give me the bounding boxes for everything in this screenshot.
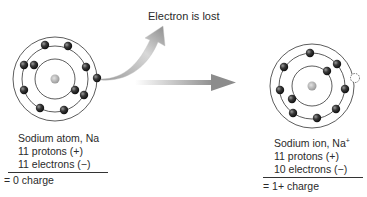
ion-charge: = 1+ charge <box>263 180 319 193</box>
sodium-ion <box>270 44 360 128</box>
nucleus-icon <box>51 75 60 84</box>
ion-title: Sodium ion, Na+ <box>274 137 350 150</box>
atom-charge: = 0 charge <box>4 174 54 187</box>
ion-electrons: 10 electrons (−) <box>274 163 347 176</box>
atom-protons: 11 protons (+) <box>18 145 83 158</box>
caption-electron-lost: Electron is lost <box>148 10 220 23</box>
nucleus-icon <box>308 82 317 91</box>
transition-arrow-icon <box>135 74 236 91</box>
ion-title-text: Sodium ion, Na <box>274 137 346 149</box>
sodium-atom <box>13 37 101 121</box>
ion-protons: 11 protons (+) <box>274 150 339 163</box>
curved-arrow-icon <box>101 26 165 80</box>
atom-title: Sodium atom, Na <box>18 132 99 145</box>
valence-electron-icon <box>93 74 101 82</box>
ion-sum-rule <box>263 177 363 178</box>
ion-title-superscript: + <box>346 137 350 144</box>
vacancy-icon <box>351 74 360 83</box>
atom-sum-rule <box>8 172 108 173</box>
atom-electrons: 11 electrons (−) <box>18 158 90 171</box>
